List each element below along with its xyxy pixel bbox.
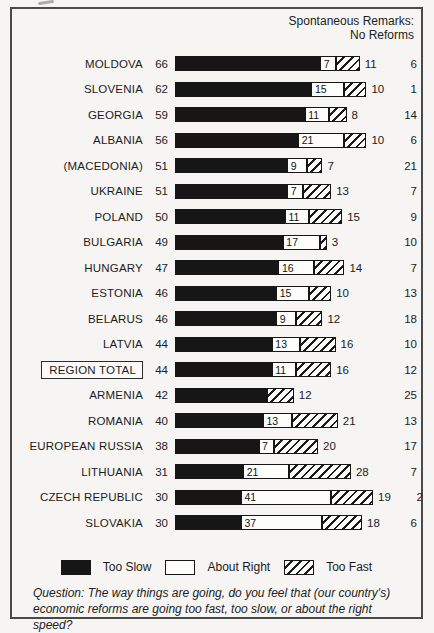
legend-label-too-fast: Too Fast [326,560,372,574]
about-right-value: 15 [277,288,291,299]
about-right-segment: 15 [311,82,344,97]
remarks-header-line1: Spontaneous Remarks: [12,14,414,28]
country-label: BULGARIA [12,236,143,248]
legend-item-too-fast: Too Fast [284,560,372,575]
no-reforms-value: 13 [385,287,417,299]
about-right-segment: 13 [272,337,301,352]
too-slow-value: 44 [148,338,168,350]
country-row: BELARUS 46 9 12 18 [12,306,421,332]
stacked-bar: 21 10 [175,133,385,148]
legend: Too Slow About Right Too Fast [12,560,421,575]
no-reforms-value: 18 [385,313,417,325]
about-right-segment: 21 [243,464,289,479]
about-right-segment: 7 [320,56,335,71]
country-row: SLOVAKIA 30 37 18 6 [12,510,421,536]
too-fast-segment [303,184,332,199]
country-label-cell: BELARUS [12,313,143,325]
country-label-cell: (MACEDONIA) [12,160,143,172]
country-label-cell: BULGARIA [12,236,143,248]
stacked-bar: 15 10 [175,82,385,97]
country-label: ROMANIA [12,415,143,427]
about-right-value: 16 [279,263,293,274]
country-row: CZECH REPUBLIC 30 41 19 2 [12,485,421,511]
country-label: ESTONIA [12,287,143,299]
no-reforms-value: 12 [385,364,417,376]
too-fast-segment [296,362,331,377]
no-reforms-value: 10 [385,236,417,248]
too-slow-segment [175,56,320,71]
stacked-bar: 16 14 [175,260,385,275]
too-slow-value: 66 [148,58,168,70]
remarks-header: Spontaneous Remarks: No Reforms [12,14,414,42]
country-label: LITHUANIA [12,466,143,478]
question-text: Question: The way things are going, do y… [33,585,401,633]
too-slow-value: 31 [148,466,168,478]
country-label: EUROPEAN RUSSIA [12,440,143,452]
country-row: ROMANIA 40 13 21 13 [12,408,421,434]
stacked-bar: 17 3 [175,235,385,250]
stacked-bar: 9 7 [175,158,385,173]
too-fast-segment [309,286,331,301]
too-slow-segment [175,133,298,148]
country-label-cell: POLAND [12,211,143,223]
about-right-segment: 16 [278,260,313,275]
country-row: MOLDOVA 66 7 11 6 [12,51,421,77]
legend-label-about-right: About Right [207,560,270,574]
too-slow-swatch-icon [61,560,91,575]
stacked-bar: 21 28 [175,464,385,479]
about-right-segment: 9 [287,158,307,173]
country-label-cell: ALBANIA [12,134,143,146]
stacked-bar: 41 19 [175,490,391,505]
too-slow-segment [175,311,276,326]
too-slow-segment [175,362,272,377]
no-reforms-value: 9 [385,211,417,223]
too-fast-swatch-icon [284,560,314,575]
too-slow-value: 49 [148,236,168,248]
country-label: SLOVAKIA [12,517,143,529]
too-fast-value: 28 [356,466,369,478]
too-slow-segment [175,388,267,403]
too-fast-value: 14 [349,262,362,274]
too-slow-segment [175,439,259,454]
about-right-segment: 11 [305,107,329,122]
too-fast-value: 18 [367,517,380,529]
too-fast-value: 15 [347,211,360,223]
no-reforms-value: 21 [385,160,417,172]
about-right-value: 11 [273,365,286,376]
country-row: POLAND 50 11 15 9 [12,204,421,230]
stacked-bar: 7 11 [175,56,385,71]
country-label: BELARUS [12,313,143,325]
about-right-segment: 7 [259,439,274,454]
about-right-segment: 11 [272,362,296,377]
stacked-bar: 13 16 [175,337,385,352]
too-fast-value: 10 [336,287,349,299]
too-fast-segment [322,515,362,530]
country-row: ALBANIA 56 21 10 6 [12,128,421,154]
about-right-value: 41 [242,492,256,503]
country-row: GEORGIA 59 11 8 14 [12,102,421,128]
about-right-swatch-icon [165,560,195,575]
too-fast-value: 21 [343,415,356,427]
country-label-cell: HUNGARY [12,262,143,274]
country-label-cell: LATVIA [12,338,143,350]
about-right-value: 9 [288,161,296,172]
about-right-segment: 17 [283,235,320,250]
scanned-chart-page: { "header": { "line1": "Spontaneous Rema… [0,0,434,633]
country-row: ARMENIA 42 12 25 [12,383,421,409]
too-slow-value: 38 [148,440,168,452]
too-fast-value: 10 [371,134,384,146]
legend-item-too-slow: Too Slow [61,560,152,575]
country-label-cell: ARMENIA [12,389,143,401]
no-reforms-value: 17 [385,440,417,452]
no-reforms-value: 14 [385,109,417,121]
country-label: REGION TOTAL [41,361,143,379]
stacked-bar: 7 20 [175,439,385,454]
country-row: ESTONIA 46 15 10 13 [12,281,421,307]
country-label-cell: ESTONIA [12,287,143,299]
too-fast-value: 20 [323,440,336,452]
country-label: GEORGIA [12,109,143,121]
too-fast-value: 11 [365,58,377,70]
too-fast-segment [336,56,360,71]
too-fast-value: 8 [352,109,358,121]
about-right-value: 7 [321,59,329,70]
